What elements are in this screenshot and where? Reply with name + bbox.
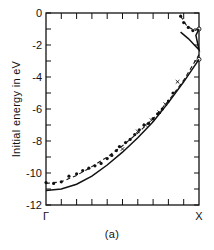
y-tick-label: 0 bbox=[36, 7, 42, 19]
x-tick-x: X bbox=[195, 210, 203, 222]
y-tick-label: -8 bbox=[32, 135, 42, 147]
data-series bbox=[44, 15, 201, 191]
series-solid bbox=[181, 29, 199, 50]
y-tick-labels: 0-2-4-6-8-10-12 bbox=[26, 7, 42, 211]
band-structure-chart: 0-2-4-6-8-10-12 Γ X Initial energy in eV… bbox=[0, 0, 214, 250]
y-tick-label: -10 bbox=[26, 167, 42, 179]
series-solid bbox=[46, 59, 199, 190]
y-tick-label: -12 bbox=[26, 199, 42, 211]
y-tick-label: -2 bbox=[32, 39, 42, 51]
y-tick-label: -4 bbox=[32, 71, 42, 83]
figure-caption: (a) bbox=[105, 228, 119, 240]
x-tick-gamma: Γ bbox=[43, 210, 49, 222]
series-dashed bbox=[46, 55, 199, 184]
y-axis-title: Initial energy in eV bbox=[10, 60, 22, 157]
y-tick-label: -6 bbox=[32, 103, 42, 115]
series-dots bbox=[44, 15, 194, 185]
